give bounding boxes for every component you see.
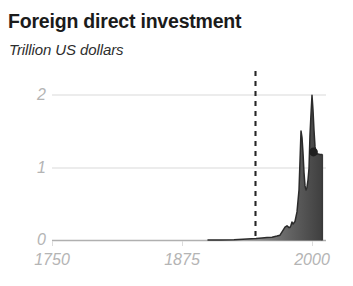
chart-canvas <box>0 0 353 286</box>
y-tick-label-1: 1 <box>24 160 46 176</box>
y-tick-label-0: 0 <box>24 232 46 248</box>
chart-figure: Foreign direct investment Trillion US do… <box>0 0 353 286</box>
end-point-marker <box>309 148 318 157</box>
x-tick-label-1750: 1750 <box>12 252 92 268</box>
x-axis <box>52 241 326 247</box>
gridlines <box>52 95 326 168</box>
y-tick-label-2: 2 <box>24 87 46 103</box>
x-tick-label-2000: 2000 <box>272 252 352 268</box>
plot-area: 2 1 0 1750 1875 2000 <box>0 0 353 286</box>
x-tick-label-1875: 1875 <box>142 252 222 268</box>
